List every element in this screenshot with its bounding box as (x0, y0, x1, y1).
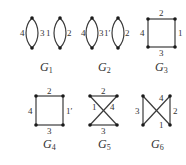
graph-label: G3 (155, 60, 168, 75)
vertex (90, 16, 94, 20)
edge-label: 4 (159, 93, 164, 103)
vertex (168, 94, 172, 98)
edge-label: 2 (173, 106, 178, 116)
edge-label: 3 (101, 126, 106, 136)
edge-label: 1′ (104, 28, 111, 38)
vertex (61, 123, 65, 127)
graph-g5: 2 1 4 3 G5 (88, 86, 119, 152)
graph-g4: 2 4 1′ 3 G4 (28, 86, 73, 152)
edge-label: 2 (159, 8, 164, 18)
graph-figure: 4 3 1 2 G1 4 3 1′ 2 G2 2 4 1 3 G3 (0, 0, 186, 165)
edge-label: 4 (110, 102, 115, 112)
vertex (173, 17, 177, 21)
edge-label: 4 (20, 28, 25, 38)
vertex (34, 123, 38, 127)
vertex (173, 45, 177, 49)
vertex (141, 94, 145, 98)
edge-label: 1 (159, 120, 164, 130)
edge-2 (60, 18, 66, 48)
vertex (116, 16, 120, 20)
edge-label: 4 (28, 106, 33, 116)
vertex (30, 46, 34, 50)
vertex (141, 123, 145, 127)
vertex (88, 123, 92, 127)
edge-4 (26, 18, 32, 48)
vertex (168, 123, 172, 127)
graph-label: G1 (40, 60, 53, 75)
graph-label: G5 (98, 137, 111, 152)
edge-label: 2 (47, 86, 52, 96)
edge-label: 1 (46, 28, 51, 38)
graph-g3: 2 4 1 3 G3 (140, 8, 183, 75)
edge-label: 4 (81, 28, 86, 38)
edge-1 (54, 18, 60, 48)
graph-g2: 4 3 1′ 2 G2 (81, 16, 130, 75)
vertex (116, 46, 120, 50)
edge-label: 1 (92, 102, 97, 112)
vertex (30, 16, 34, 20)
graph-label: G2 (98, 60, 111, 75)
edge-2 (118, 18, 124, 48)
edge-1-prime (112, 18, 118, 48)
vertex (61, 94, 65, 98)
vertex (58, 16, 62, 20)
graph-g1: 4 3 1 2 G1 (20, 16, 72, 75)
edge-label: 2 (125, 28, 130, 38)
edge-label: 1 (178, 28, 183, 38)
edge-label: 3 (159, 48, 164, 58)
vertex (115, 94, 119, 98)
edge-4 (86, 18, 92, 48)
edge-3 (92, 18, 98, 48)
graph-label: G6 (151, 137, 164, 152)
edge-label: 3 (40, 28, 45, 38)
graph-label: G4 (43, 137, 56, 152)
edge-label: 2 (67, 28, 72, 38)
edge-label: 4 (140, 28, 145, 38)
vertex (34, 94, 38, 98)
vertex (90, 46, 94, 50)
edge-label: 1′ (66, 106, 73, 116)
vertex (146, 17, 150, 21)
graph-g6: 4 3 2 1 G6 (135, 93, 178, 152)
edge-3 (32, 18, 38, 48)
edge-label: 3 (135, 106, 140, 116)
vertex (146, 45, 150, 49)
edge-label: 3 (47, 126, 52, 136)
edge-label: 2 (101, 86, 106, 96)
vertex (58, 46, 62, 50)
vertex (115, 123, 119, 127)
vertex (88, 94, 92, 98)
